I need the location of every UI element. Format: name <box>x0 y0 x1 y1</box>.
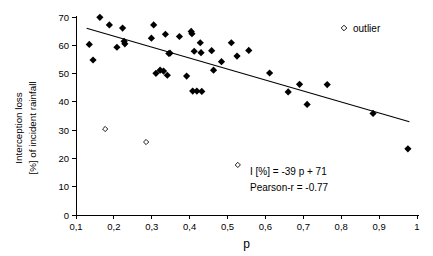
data-point <box>183 73 190 80</box>
x-tick-label: 0,2 <box>107 221 120 232</box>
data-point <box>304 101 311 108</box>
data-point <box>296 81 303 88</box>
outlier-point <box>235 162 240 167</box>
outlier-point <box>143 139 148 144</box>
data-point <box>245 47 252 54</box>
regression-line <box>87 28 410 121</box>
y-tick-label: 10 <box>58 181 69 192</box>
y-axis-title-line1: Interception loss <box>13 92 24 163</box>
y-tick-label: 40 <box>58 96 69 107</box>
x-tick-label: 0,8 <box>335 221 348 232</box>
y-axis-title-line2: [%] of incident rainfall <box>27 81 38 174</box>
data-point <box>197 49 204 56</box>
data-point <box>176 33 183 40</box>
data-point <box>162 31 169 38</box>
y-tick-label: 50 <box>58 68 69 79</box>
data-point <box>148 35 155 42</box>
data-point <box>86 41 93 48</box>
y-tick-label: 20 <box>58 153 69 164</box>
data-point <box>89 56 96 63</box>
x-tick-label: 0,5 <box>221 221 234 232</box>
data-point <box>404 145 411 152</box>
data-point <box>285 88 292 95</box>
data-point <box>233 52 240 59</box>
legend-marker-outlier <box>341 25 347 31</box>
scatter-plot: 0,10,20,30,40,50,60,70,80,91010203040506… <box>0 0 433 256</box>
data-point <box>197 39 204 46</box>
data-point <box>150 21 157 28</box>
y-tick-label: 70 <box>58 12 69 23</box>
data-point <box>266 69 273 76</box>
data-point <box>106 21 113 28</box>
x-tick-label: 0,7 <box>297 221 310 232</box>
data-point <box>208 47 215 54</box>
data-point <box>113 44 120 51</box>
chart-figure: 0,10,20,30,40,50,60,70,80,91010203040506… <box>0 0 433 256</box>
y-tick-label: 0 <box>64 210 69 221</box>
data-point <box>119 24 126 31</box>
data-point <box>324 81 331 88</box>
x-tick-label: 0,3 <box>145 221 158 232</box>
x-tick-label: 0,9 <box>373 221 386 232</box>
x-tick-label: 0,6 <box>259 221 272 232</box>
x-axis-title: p <box>243 237 250 251</box>
data-point <box>198 88 205 95</box>
x-tick-label: 1 <box>414 221 419 232</box>
pearson-r-text: Pearson-r = -0.77 <box>250 182 329 193</box>
data-point <box>191 48 198 55</box>
data-point <box>166 50 173 57</box>
y-tick-label: 30 <box>58 125 69 136</box>
x-tick-label: 0,4 <box>183 221 196 232</box>
data-point <box>96 14 103 21</box>
regression-equation-text: I [%] = -39 p + 71 <box>250 166 327 177</box>
data-point <box>210 67 217 74</box>
x-tick-label: 0,1 <box>69 221 82 232</box>
data-point <box>228 39 235 46</box>
y-tick-label: 60 <box>58 40 69 51</box>
legend-label-outlier: outlier <box>353 23 381 34</box>
outlier-point <box>103 126 108 131</box>
data-point <box>218 58 225 65</box>
